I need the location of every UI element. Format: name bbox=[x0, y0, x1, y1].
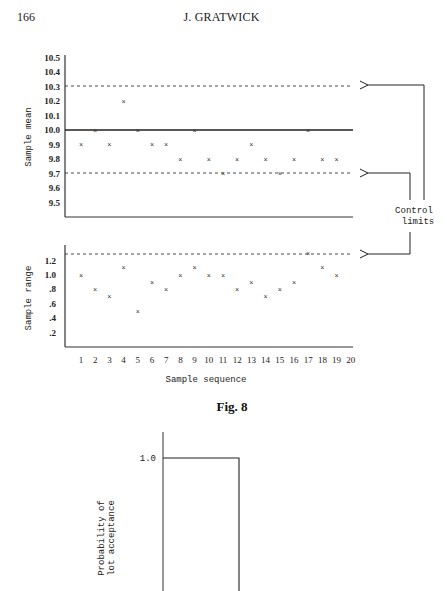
x-axis-label: Sample sequence bbox=[165, 375, 246, 385]
x-tick-label: 13 bbox=[247, 355, 257, 365]
x-tick-labels: 1234567891011121314151617181920 bbox=[79, 355, 356, 365]
figure-canvas: 10.510.410.310.210.110.09.99.89.79.69.5 … bbox=[0, 0, 447, 591]
data-point-marker: × bbox=[263, 293, 267, 301]
x-tick-label: 7 bbox=[164, 355, 169, 365]
y-tick-label: 9.8 bbox=[49, 154, 61, 164]
data-point-marker: × bbox=[249, 141, 253, 149]
data-point-marker: × bbox=[107, 293, 111, 301]
range-data-points: ××××××××××××××××××× bbox=[79, 250, 339, 316]
control-limits-annotation: Control limits bbox=[368, 85, 434, 254]
x-tick-label: 3 bbox=[107, 355, 112, 365]
control-limits-label-line2: limits bbox=[402, 217, 434, 227]
y-tick-label: 9.5 bbox=[49, 198, 61, 208]
y-tick-label: .4 bbox=[49, 313, 56, 323]
data-point-marker: × bbox=[93, 286, 97, 294]
x-tick-label: 8 bbox=[178, 355, 183, 365]
arrow-lower-mean-limit bbox=[368, 173, 410, 200]
data-point-marker: × bbox=[136, 127, 140, 135]
data-point-marker: × bbox=[164, 286, 168, 294]
data-point-marker: × bbox=[334, 156, 338, 164]
figure-caption: Fig. 8 bbox=[216, 399, 248, 414]
x-tick-label: 14 bbox=[261, 355, 271, 365]
y-tick-label: 10.4 bbox=[44, 67, 60, 77]
oc-curve bbox=[163, 458, 239, 591]
x-tick-label: 16 bbox=[290, 355, 300, 365]
mean-chart: 10.510.410.310.210.110.09.99.89.79.69.5 … bbox=[24, 53, 353, 218]
x-tick-label: 4 bbox=[121, 355, 126, 365]
data-point-marker: × bbox=[207, 156, 211, 164]
data-point-marker: × bbox=[278, 170, 282, 178]
mean-data-points: ××××××××××××××××××× bbox=[79, 98, 339, 179]
data-point-marker: × bbox=[192, 127, 196, 135]
x-tick-label: 15 bbox=[275, 355, 285, 365]
control-limits-label-line1: Control bbox=[395, 206, 433, 216]
y-tick-label: 1.0 bbox=[45, 270, 57, 280]
oc-y-axis-label-line1: Probability of bbox=[97, 500, 107, 576]
y-tick-label: 10.0 bbox=[44, 125, 60, 135]
range-y-axis-label: Sample range bbox=[24, 266, 34, 331]
y-tick-label: .2 bbox=[49, 328, 56, 338]
data-point-marker: × bbox=[221, 272, 225, 280]
data-point-marker: × bbox=[136, 308, 140, 316]
data-point-marker: × bbox=[93, 127, 97, 135]
y-tick-label: 1.2 bbox=[45, 256, 57, 266]
data-point-marker: × bbox=[306, 127, 310, 135]
x-tick-label: 11 bbox=[219, 355, 228, 365]
x-tick-label: 10 bbox=[204, 355, 214, 365]
data-point-marker: × bbox=[221, 170, 225, 178]
data-point-marker: × bbox=[79, 272, 83, 280]
data-point-marker: × bbox=[320, 264, 324, 272]
y-tick-label: 9.7 bbox=[49, 169, 61, 179]
oc-y-axis-label-line2: lot acceptance bbox=[107, 500, 117, 576]
x-tick-label: 12 bbox=[233, 355, 242, 365]
x-tick-label: 19 bbox=[332, 355, 342, 365]
x-tick-label: 17 bbox=[304, 355, 314, 365]
data-point-marker: × bbox=[79, 141, 83, 149]
x-tick-label: 1 bbox=[79, 355, 84, 365]
data-point-marker: × bbox=[263, 156, 267, 164]
y-tick-label: 10.1 bbox=[44, 111, 60, 121]
data-point-marker: × bbox=[150, 279, 154, 287]
data-point-marker: × bbox=[292, 156, 296, 164]
data-point-marker: × bbox=[249, 279, 253, 287]
mean-y-axis-label: Sample mean bbox=[24, 107, 34, 166]
data-point-marker: × bbox=[292, 279, 296, 287]
data-point-marker: × bbox=[306, 250, 310, 258]
x-tick-label: 18 bbox=[318, 355, 328, 365]
x-tick-label: 9 bbox=[192, 355, 197, 365]
data-point-marker: × bbox=[207, 272, 211, 280]
data-point-marker: × bbox=[334, 272, 338, 280]
range-chart: 1.21.0.8.6.4.2 ××××××××××××××××××× 12345… bbox=[24, 245, 356, 385]
oc-y-tick-label: 1.0 bbox=[140, 454, 156, 464]
y-tick-label: .6 bbox=[49, 299, 56, 309]
y-tick-label: 10.2 bbox=[44, 96, 60, 106]
data-point-marker: × bbox=[235, 156, 239, 164]
x-tick-label: 5 bbox=[136, 355, 141, 365]
x-tick-label: 20 bbox=[346, 355, 356, 365]
data-point-marker: × bbox=[320, 156, 324, 164]
y-tick-label: 10.5 bbox=[44, 53, 60, 63]
data-point-marker: × bbox=[121, 264, 125, 272]
data-point-marker: × bbox=[121, 98, 125, 106]
arrow-range-limit bbox=[368, 232, 410, 254]
x-tick-label: 2 bbox=[93, 355, 98, 365]
data-point-marker: × bbox=[192, 264, 196, 272]
x-tick-label: 6 bbox=[150, 355, 155, 365]
mean-y-tick-labels: 10.510.410.310.210.110.09.99.89.79.69.5 bbox=[44, 53, 60, 208]
y-tick-label: .8 bbox=[49, 284, 56, 294]
y-tick-label: 9.6 bbox=[49, 183, 61, 193]
data-point-marker: × bbox=[107, 141, 111, 149]
data-point-marker: × bbox=[178, 156, 182, 164]
data-point-marker: × bbox=[278, 286, 282, 294]
data-point-marker: × bbox=[150, 141, 154, 149]
oc-curve-chart: 1.0 Probability of lot acceptance bbox=[97, 432, 239, 591]
data-point-marker: × bbox=[235, 286, 239, 294]
data-point-marker: × bbox=[178, 272, 182, 280]
arrow-upper-limit bbox=[368, 85, 424, 200]
data-point-marker: × bbox=[164, 141, 168, 149]
y-tick-label: 10.3 bbox=[44, 82, 60, 92]
y-tick-label: 9.9 bbox=[49, 140, 61, 150]
range-y-tick-labels: 1.21.0.8.6.4.2 bbox=[45, 256, 57, 338]
